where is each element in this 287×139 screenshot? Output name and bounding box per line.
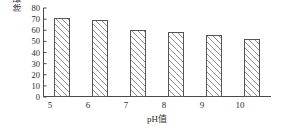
y-tick-label: 40 — [23, 48, 40, 57]
bar — [168, 32, 184, 97]
y-tick-label: 30 — [23, 59, 40, 68]
plot-area — [43, 8, 271, 97]
x-tick-label: 10 — [228, 100, 252, 111]
y-tick-label: 20 — [23, 71, 40, 80]
bar — [130, 30, 146, 97]
y-tick-label: 10 — [23, 82, 40, 91]
y-tick-label: 80 — [23, 4, 40, 13]
bar — [92, 20, 108, 97]
y-tick-label: 60 — [23, 26, 40, 35]
bar — [244, 39, 260, 97]
y-tick-label: 70 — [23, 15, 40, 24]
bars-layer — [43, 8, 271, 97]
x-tick-label: 7 — [114, 100, 138, 111]
bar — [206, 35, 222, 97]
x-tick-label: 8 — [152, 100, 176, 111]
x-axis-title: pH值 — [43, 113, 271, 125]
bar-chart: 除磷率（%） 01020304050607080 5678910 pH值 — [0, 0, 287, 139]
bar — [54, 18, 70, 97]
x-tick-label: 6 — [76, 100, 100, 111]
y-axis-title: 除磷率（%） — [10, 0, 24, 28]
y-tick-label: 50 — [23, 37, 40, 46]
x-tick-label: 5 — [38, 100, 62, 111]
x-axis-tick-labels: 5678910 — [43, 100, 271, 112]
y-axis-tick-labels: 01020304050607080 — [23, 4, 40, 97]
x-tick-label: 9 — [190, 100, 214, 111]
